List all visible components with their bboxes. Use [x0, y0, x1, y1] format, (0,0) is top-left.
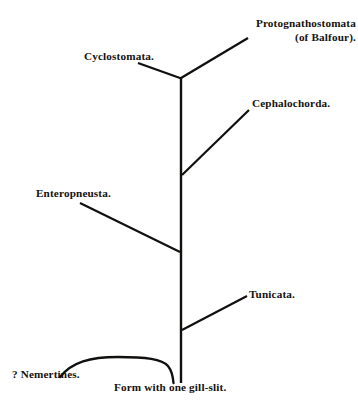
label-protognathostomata: Protognathostomata (of Balfour).	[238, 17, 356, 44]
tunicata-branch-line	[182, 296, 247, 330]
enteropneusta-branch-line	[80, 203, 180, 252]
label-form-with-one-gill-slit: Form with one gill-slit.	[114, 381, 226, 395]
label-protognathostomata-line1: Protognathostomata	[256, 17, 356, 29]
label-cephalochorda: Cephalochorda.	[252, 97, 330, 111]
tree-lines-svg	[0, 0, 358, 418]
cephalochorda-branch-line	[182, 110, 249, 175]
protognathostomata-branch-line	[180, 38, 248, 79]
label-cyclostomata: Cyclostomata.	[84, 50, 154, 64]
label-nemertines: ? Nemertines.	[12, 368, 80, 382]
label-protognathostomata-line2: (of Balfour).	[238, 31, 356, 45]
phylogenetic-tree-diagram: Protognathostomata (of Balfour). Cyclost…	[0, 0, 358, 418]
cyclostomata-branch-line	[138, 63, 181, 79]
label-enteropneusta: Enteropneusta.	[36, 187, 111, 201]
label-tunicata: Tunicata.	[249, 288, 295, 302]
